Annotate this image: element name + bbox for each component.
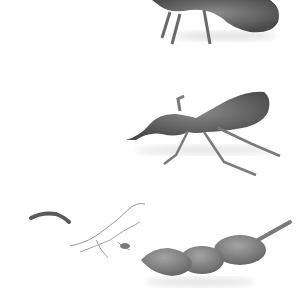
middle-pod xyxy=(126,92,280,175)
photo-scene xyxy=(0,0,303,297)
bottom-pods xyxy=(141,222,290,287)
loose-twig-and-fibers xyxy=(31,204,145,259)
tamarind-photo xyxy=(0,0,303,297)
top-pod xyxy=(152,0,279,44)
